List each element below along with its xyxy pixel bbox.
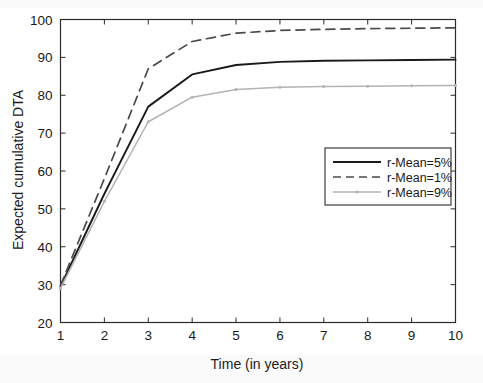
series-marker: [322, 85, 325, 88]
x-tick-label: 2: [101, 328, 109, 343]
y-tick-label: 20: [37, 316, 52, 331]
series-marker: [103, 200, 106, 203]
series-marker: [191, 96, 194, 99]
y-axis-title: Expected cumulative DTA: [10, 89, 26, 250]
chart-legend[interactable]: r-Mean=5%r-Mean=1%r-Mean=9%: [325, 148, 452, 205]
y-tick-label: 50: [37, 202, 52, 217]
legend-marker: [356, 191, 359, 194]
x-tick-label: 1: [57, 328, 65, 343]
y-tick-label: 70: [37, 126, 52, 141]
x-tick-label: 10: [448, 328, 463, 343]
y-tick-label: 30: [37, 278, 52, 293]
series-marker: [278, 86, 281, 89]
legend-label-2: r-Mean=1%: [387, 171, 452, 185]
legend-label-3: r-Mean=9%: [387, 186, 452, 200]
y-tick-label: 90: [37, 50, 52, 65]
series-marker: [366, 85, 369, 88]
series-marker: [235, 88, 238, 91]
y-tick-label: 80: [37, 88, 52, 103]
x-tick-label: 3: [145, 328, 153, 343]
y-tick-label: 60: [37, 164, 52, 179]
x-tick-label: 4: [188, 328, 196, 343]
series-marker: [147, 120, 150, 123]
x-tick-label: 5: [232, 328, 240, 343]
series-marker: [410, 84, 413, 87]
x-tick-label: 9: [408, 328, 416, 343]
series-marker: [454, 84, 457, 87]
legend-label-1: r-Mean=5%: [387, 156, 452, 170]
x-tick-label: 6: [276, 328, 284, 343]
x-tick-label: 8: [364, 328, 372, 343]
line-chart: 12345678910 2030405060708090100 Time (in…: [0, 0, 483, 383]
y-tick-label: 40: [37, 240, 52, 255]
x-tick-label: 7: [320, 328, 328, 343]
series-marker: [59, 287, 62, 290]
chart-figure: 12345678910 2030405060708090100 Time (in…: [0, 0, 483, 383]
y-tick-label: 100: [30, 13, 53, 28]
x-axis-title: Time (in years): [211, 356, 304, 372]
